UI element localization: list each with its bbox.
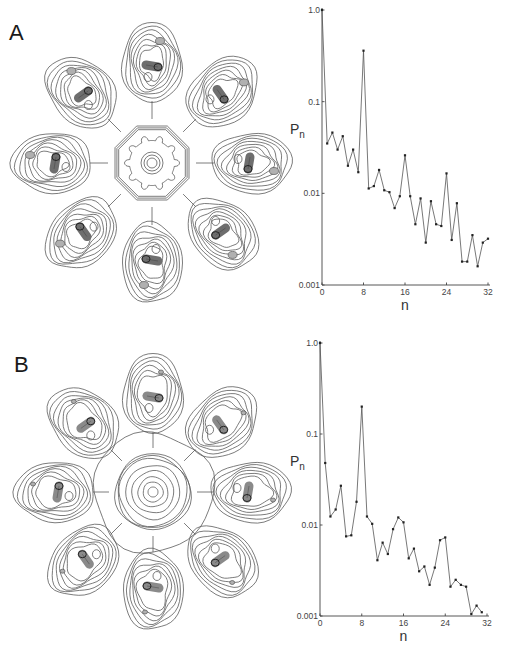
data-point xyxy=(321,9,323,11)
density-lobe xyxy=(48,524,119,595)
data-point xyxy=(357,171,359,173)
y-tick-label: 0.001 xyxy=(297,611,319,621)
data-point xyxy=(419,197,421,199)
data-point xyxy=(336,148,338,150)
data-point xyxy=(428,584,430,586)
plot-area: 1.00.10.010.00108162432nPn xyxy=(290,338,492,644)
data-point xyxy=(455,579,457,581)
data-point xyxy=(471,234,473,236)
data-point xyxy=(481,611,483,613)
x-tick-label: 8 xyxy=(359,618,364,628)
data-point xyxy=(319,342,321,344)
data-point xyxy=(470,613,472,615)
x-tick-label: 16 xyxy=(399,618,409,628)
chart-b: 1.00.10.010.00108162432nPn xyxy=(286,320,506,650)
y-tick-label: 0.01 xyxy=(301,520,318,530)
data-point xyxy=(376,559,378,561)
x-tick-label: 8 xyxy=(361,287,366,297)
y-tick-label: 0.1 xyxy=(306,429,318,439)
central-ring xyxy=(93,432,215,554)
data-point xyxy=(361,406,363,408)
data-point xyxy=(368,187,370,189)
data-point xyxy=(440,225,442,227)
data-point xyxy=(340,485,342,487)
data-point xyxy=(477,265,479,267)
contour-diagram xyxy=(10,23,293,302)
chart-a: 1.00.10.010.00108162432nPn xyxy=(286,0,506,320)
data-point xyxy=(350,534,352,536)
data-point xyxy=(423,565,425,567)
density-lobe xyxy=(185,387,256,458)
data-point xyxy=(460,584,462,586)
density-lobe xyxy=(45,197,116,268)
data-series-line xyxy=(322,10,488,266)
data-point xyxy=(402,521,404,523)
x-tick-label: 24 xyxy=(441,618,451,628)
data-point xyxy=(414,223,416,225)
y-axis-label: Pn xyxy=(290,453,305,472)
plot-area: 1.00.10.010.00108162432nPn xyxy=(290,5,493,313)
data-point xyxy=(444,536,446,538)
data-point xyxy=(461,261,463,263)
data-point xyxy=(324,462,326,464)
data-point xyxy=(383,189,385,191)
data-point xyxy=(345,535,347,537)
data-point xyxy=(366,515,368,517)
y-tick-label: 0.1 xyxy=(308,97,320,107)
data-point xyxy=(362,50,364,52)
data-point xyxy=(335,508,337,510)
data-point xyxy=(388,191,390,193)
data-point xyxy=(347,165,349,167)
data-point xyxy=(409,195,411,197)
data-point xyxy=(408,557,410,559)
data-point xyxy=(445,172,447,174)
data-point xyxy=(465,586,467,588)
data-point xyxy=(449,586,451,588)
data-point xyxy=(397,516,399,518)
data-point xyxy=(439,539,441,541)
y-tick-label: 0.001 xyxy=(299,280,321,290)
density-lobe xyxy=(121,23,182,103)
data-point xyxy=(378,169,380,171)
data-point xyxy=(342,135,344,137)
x-tick-label: 24 xyxy=(442,287,452,297)
data-point xyxy=(418,570,420,572)
density-lobe xyxy=(124,548,184,629)
data-point xyxy=(466,261,468,263)
data-point xyxy=(434,567,436,569)
data-point xyxy=(413,548,415,550)
x-tick-label: 32 xyxy=(482,618,492,628)
data-point xyxy=(355,501,357,503)
data-point xyxy=(387,553,389,555)
data-point xyxy=(371,523,373,525)
data-point xyxy=(404,154,406,156)
data-point xyxy=(329,515,331,517)
x-tick-label: 0 xyxy=(318,618,323,628)
data-point xyxy=(475,605,477,607)
data-point xyxy=(482,242,484,244)
data-point xyxy=(399,195,401,197)
data-point xyxy=(394,207,396,209)
x-axis-label: n xyxy=(400,628,408,644)
density-lobe xyxy=(10,134,90,194)
data-series-line xyxy=(320,343,482,614)
contour-diagram xyxy=(13,354,292,629)
data-point xyxy=(382,542,384,544)
x-tick-label: 16 xyxy=(400,287,410,297)
data-point xyxy=(392,528,394,530)
data-point xyxy=(430,200,432,202)
data-point xyxy=(435,223,437,225)
y-axis-label: Pn xyxy=(290,121,305,140)
y-tick-label: 0.01 xyxy=(303,188,320,198)
central-ring xyxy=(115,126,189,200)
data-point xyxy=(487,238,489,240)
density-lobe xyxy=(47,388,119,459)
density-lobe xyxy=(212,133,293,194)
data-point xyxy=(331,131,333,133)
density-lobe xyxy=(122,354,183,434)
contour-map-b xyxy=(0,320,300,650)
contour-map-a xyxy=(0,0,300,320)
x-axis-label: n xyxy=(401,297,409,313)
data-point xyxy=(373,185,375,187)
x-tick-label: 0 xyxy=(320,287,325,297)
